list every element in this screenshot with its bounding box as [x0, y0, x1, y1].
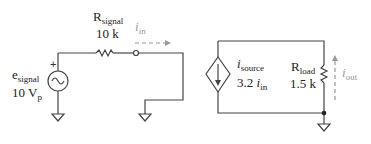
input-terminal-icon — [134, 51, 139, 56]
resistor-signal-icon — [96, 50, 113, 56]
i-out-label: iout — [342, 66, 357, 82]
i-source-label: isource — [237, 57, 264, 73]
polarity-plus: + — [50, 58, 56, 70]
r-load-label: Rload — [291, 60, 315, 76]
r-signal-value: 10 k — [96, 27, 119, 40]
r-load-value: 1.5 k — [290, 77, 316, 90]
ground-icon — [139, 114, 151, 121]
r-signal-label: Rsignal — [93, 10, 123, 26]
circuit-schematic: + — [0, 0, 371, 144]
resistor-load-icon — [321, 65, 327, 83]
e-signal-label: esignal — [12, 68, 39, 84]
i-in-label: iin — [135, 20, 146, 36]
e-signal-value: 10 Vp — [12, 86, 42, 102]
ground-icon — [52, 114, 64, 121]
ground-icon — [318, 124, 330, 131]
i-source-gain: 3.2 iin — [237, 76, 267, 92]
junction-dot — [322, 111, 327, 116]
